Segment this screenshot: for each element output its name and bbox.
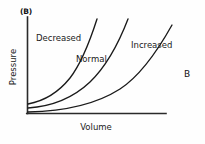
curve-label-increased: Increased: [131, 40, 172, 50]
curve-label-decreased: Decreased: [36, 33, 81, 43]
curve-label-normal: Normal: [76, 54, 107, 64]
panel-label: (B): [20, 7, 32, 16]
side-panel-letter: B: [184, 69, 190, 79]
y-axis-title: Pressure: [8, 40, 18, 94]
x-axis-title: Volume: [66, 122, 126, 132]
figure-container: (B) Decreased Normal Increased Pressure …: [0, 0, 205, 144]
